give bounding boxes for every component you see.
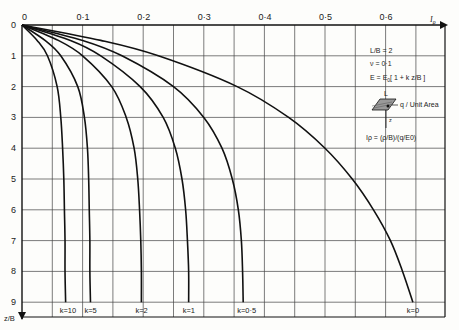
x-tick-label: 0·4 bbox=[258, 12, 271, 22]
curve-label: k=1 bbox=[183, 306, 195, 315]
x-tick-label: 0 bbox=[22, 12, 27, 22]
y-tick-label: 4 bbox=[11, 143, 16, 153]
x-tick-label: 0·1 bbox=[77, 12, 90, 22]
y-tick-label: 5 bbox=[11, 174, 16, 184]
influence-chart: 00·10·20·30·40·50·60123456789 k=10k=5k=2… bbox=[0, 0, 459, 330]
x-tick-label: 0·3 bbox=[198, 12, 211, 22]
curve-label: k=10 bbox=[60, 306, 76, 315]
legend-ratio: L/B = 2 bbox=[370, 47, 392, 54]
curve-label: k=0 bbox=[407, 306, 419, 315]
y-tick-label: 8 bbox=[11, 266, 16, 276]
y-tick-label: 2 bbox=[11, 82, 16, 92]
curve-label: k=0·5 bbox=[237, 306, 256, 315]
y-axis-title: z/B bbox=[4, 314, 15, 323]
y-tick-label: 6 bbox=[11, 205, 16, 215]
y-tick-label: 1 bbox=[11, 51, 16, 61]
x-tick-label: 0·6 bbox=[380, 12, 393, 22]
curve-label: k=2 bbox=[135, 306, 147, 315]
curve-label: k=5 bbox=[84, 306, 96, 315]
legend-poisson: ν = 0·1 bbox=[370, 60, 392, 67]
x-tick-label: 0·5 bbox=[319, 12, 332, 22]
y-tick-label: 9 bbox=[11, 297, 16, 307]
load-label: q / Unit Area bbox=[400, 101, 439, 109]
footing-length-label: L bbox=[384, 90, 388, 97]
legend-formula: Iρ = (ρ/B)/(q/E0) bbox=[366, 134, 416, 142]
y-tick-label: 7 bbox=[11, 236, 16, 246]
load-point-icon bbox=[387, 105, 390, 108]
depth-label: z bbox=[389, 117, 392, 123]
y-tick-label: 3 bbox=[11, 112, 16, 122]
y-tick-label: 0 bbox=[11, 20, 16, 30]
x-tick-label: 0·2 bbox=[137, 12, 150, 22]
